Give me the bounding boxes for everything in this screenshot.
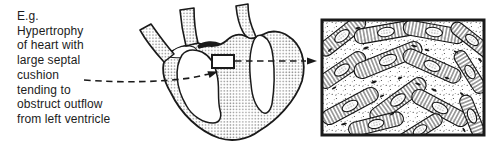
- arrowhead-icon: [307, 57, 317, 64]
- histology-texture: [315, 13, 495, 143]
- middle-vessel-stub: [180, 8, 198, 46]
- figure-artwork: [0, 0, 503, 143]
- left-vessel-stub: [140, 24, 174, 62]
- heart-cross-section-drawing: [140, 4, 304, 140]
- sample-region-box: [212, 55, 234, 68]
- right-vessel-stub: [236, 4, 256, 38]
- figure-canvas: E.g. Hypertrophy of heart with large sep…: [0, 0, 503, 143]
- histology-panel: [315, 13, 495, 143]
